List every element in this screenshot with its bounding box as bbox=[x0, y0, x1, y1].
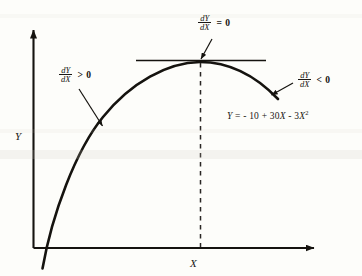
fraction-dy-dx: dY dX bbox=[59, 66, 72, 85]
relation-text: > 0 bbox=[77, 71, 91, 81]
annotation-derivative-zero: dY dX = 0 bbox=[198, 14, 231, 33]
pointer-right-arrow bbox=[272, 83, 294, 95]
parabola-curve bbox=[43, 62, 279, 269]
equation-lhs: Y bbox=[227, 111, 232, 121]
fraction-dy-dx: dY dX bbox=[298, 71, 311, 90]
equation-equals: = bbox=[235, 111, 241, 121]
annotation-derivative-positive: dY dX > 0 bbox=[59, 66, 92, 85]
equation-minus: - bbox=[288, 111, 291, 121]
equation-plus: + bbox=[262, 111, 268, 121]
x-axis-label: X bbox=[190, 258, 197, 269]
relation-text: = 0 bbox=[216, 19, 230, 29]
fraction-denominator: dX bbox=[298, 80, 311, 89]
pointer-left-arrow bbox=[79, 89, 103, 126]
relation-text: < 0 bbox=[316, 76, 330, 86]
fraction-denominator: dX bbox=[59, 75, 72, 84]
pointer-top-arrow bbox=[201, 39, 212, 59]
diagram-svg bbox=[0, 0, 362, 276]
fraction-denominator: dX bbox=[198, 23, 211, 32]
equation-term1: - 10 bbox=[243, 111, 259, 121]
figure-canvas: Y X dY dX = 0 dY dX > 0 dY dX < 0 Y = - … bbox=[0, 0, 362, 276]
equation-var2: X bbox=[280, 111, 286, 121]
fraction-dy-dx: dY dX bbox=[198, 14, 211, 33]
equation-exponent: 2 bbox=[305, 109, 308, 116]
equation-term2: 30 bbox=[270, 111, 280, 121]
y-axis-label: Y bbox=[15, 131, 21, 142]
curve-equation-label: Y = - 10 + 30X - 3X2 bbox=[227, 110, 309, 122]
annotation-derivative-negative: dY dX < 0 bbox=[298, 71, 331, 90]
